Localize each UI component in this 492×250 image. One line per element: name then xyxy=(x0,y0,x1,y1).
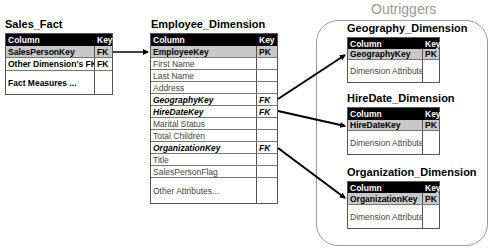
arrow-hiredate xyxy=(278,111,345,126)
arrow-geography xyxy=(278,55,345,99)
relationship-arrows xyxy=(0,0,492,250)
arrow-organization xyxy=(278,148,345,198)
